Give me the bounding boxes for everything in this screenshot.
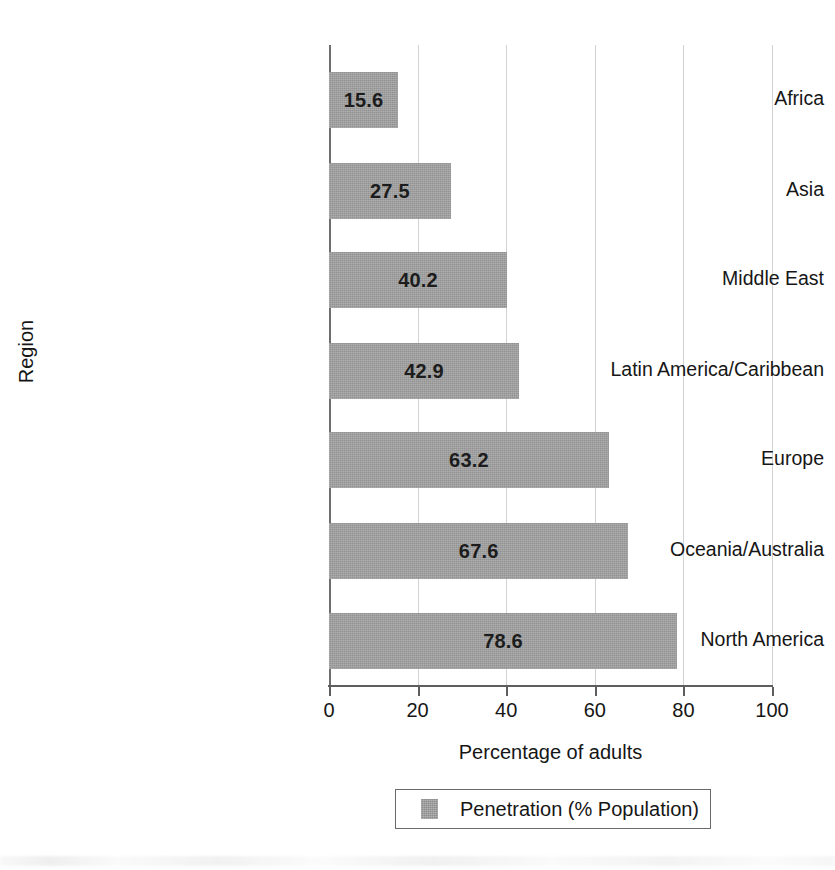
- x-axis-line: [328, 685, 773, 687]
- x-tick-100: [772, 687, 774, 696]
- bar-value-label: 27.5: [329, 163, 451, 219]
- x-tick-label-0: 0: [289, 699, 369, 722]
- x-tick-80: [683, 687, 685, 696]
- category-label: Middle East: [515, 267, 835, 290]
- x-tick-label-80: 80: [643, 699, 723, 722]
- category-label: Africa: [515, 87, 835, 110]
- bar-value-label: 15.6: [329, 72, 398, 128]
- x-tick-label-100: 100: [732, 699, 812, 722]
- x-tick-label-60: 60: [555, 699, 635, 722]
- x-axis-title: Percentage of adults: [329, 741, 772, 764]
- category-label: Oceania/Australia: [515, 538, 835, 561]
- x-tick-label-40: 40: [466, 699, 546, 722]
- category-label: Latin America/Caribbean: [515, 358, 835, 381]
- legend-swatch-icon: [421, 799, 438, 819]
- legend: Penetration (% Population): [395, 789, 711, 829]
- legend-label: Penetration (% Population): [460, 798, 699, 821]
- horizontal-bar-chart: 15.627.540.242.963.267.678.6 AfricaAsiaM…: [0, 0, 835, 870]
- category-label: North America: [515, 628, 835, 651]
- category-label: Asia: [515, 178, 835, 201]
- x-tick-label-20: 20: [378, 699, 458, 722]
- x-tick-0: [329, 687, 331, 696]
- bar-value-label: 42.9: [329, 343, 519, 399]
- x-tick-40: [506, 687, 508, 696]
- x-tick-20: [418, 687, 420, 696]
- y-axis-title: Region: [15, 292, 38, 412]
- x-tick-60: [595, 687, 597, 696]
- scan-artifact: [0, 856, 835, 866]
- bar-value-label: 40.2: [329, 252, 507, 308]
- category-label: Europe: [515, 447, 835, 470]
